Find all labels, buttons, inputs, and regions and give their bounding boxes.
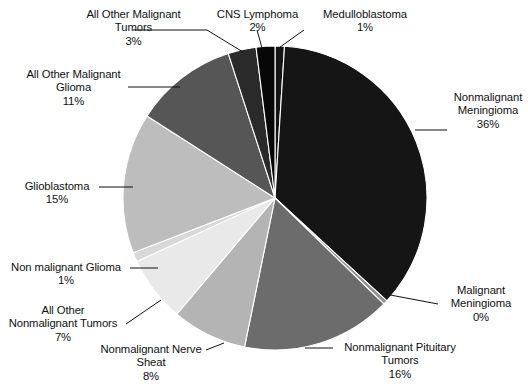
label-value: 2% — [205, 21, 310, 34]
label-line: Sheat — [96, 356, 206, 369]
slice-label-cns-lymphoma: CNS Lymphoma 2% — [205, 8, 310, 35]
label-line: Nonmalignant Tumors — [2, 317, 124, 330]
label-line: Tumors — [81, 21, 186, 34]
label-line: Medulloblastoma — [310, 8, 420, 21]
leader-line-all-other-nonmalignant-tumors — [126, 300, 161, 324]
label-line: Nonmalignant — [450, 91, 526, 104]
slice-label-nonmalignant-nerve-sheath: Nonmalignant Nerve Sheat 8% — [96, 343, 206, 383]
slice-label-nonmalignant-pituitary-tumors: Nonmalignant Pituitary Tumors 16% — [336, 341, 464, 381]
label-value: 0% — [441, 311, 521, 324]
label-value: 3% — [81, 35, 186, 48]
slice-label-non-malignant-glioma: Non malignant Glioma 1% — [6, 261, 126, 288]
label-value: 1% — [310, 21, 420, 34]
slice-label-all-other-malignant-glioma: All Other Malignant Glioma 11% — [21, 68, 126, 108]
label-value: 11% — [21, 95, 126, 108]
label-line: All Other — [2, 304, 124, 317]
label-line: CNS Lymphoma — [205, 8, 310, 21]
label-line: Meningioma — [450, 104, 526, 117]
slice-label-all-other-malignant-tumors: All Other Malignant Tumors 3% — [81, 8, 186, 48]
slice-label-glioblastoma: Glioblastoma 15% — [18, 180, 96, 207]
slice-label-all-other-nonmalignant-tumors: All Other Nonmalignant Tumors 7% — [2, 304, 124, 344]
label-value: 15% — [18, 193, 96, 206]
label-line: Meningioma — [441, 297, 521, 310]
label-line: Glioma — [21, 81, 126, 94]
label-line: Non malignant Glioma — [6, 261, 126, 274]
label-value: 36% — [450, 118, 526, 131]
leader-line-malignant-meningioma — [385, 294, 438, 304]
label-line: Nonmalignant Nerve — [96, 343, 206, 356]
pie-slice-group — [123, 46, 427, 350]
slice-label-nonmalignant-meningioma: Nonmalignant Meningioma 36% — [450, 91, 526, 131]
label-line: All Other Malignant — [21, 68, 126, 81]
label-line: Nonmalignant Pituitary — [336, 341, 464, 354]
label-line: All Other Malignant — [81, 8, 186, 21]
label-value: 8% — [96, 370, 206, 383]
label-line: Glioblastoma — [18, 180, 96, 193]
leader-line-nonmalignant-nerve-sheath — [206, 343, 224, 350]
slice-label-malignant-meningioma: Malignant Meningioma 0% — [441, 284, 521, 324]
label-value: 16% — [336, 368, 464, 381]
slice-label-medulloblastoma: Medulloblastoma 1% — [310, 8, 420, 35]
label-line: Tumors — [336, 354, 464, 367]
label-line: Malignant — [441, 284, 521, 297]
label-value: 1% — [6, 274, 126, 287]
pie-chart: All Other Malignant Tumors 3% CNS Lympho… — [0, 0, 528, 392]
